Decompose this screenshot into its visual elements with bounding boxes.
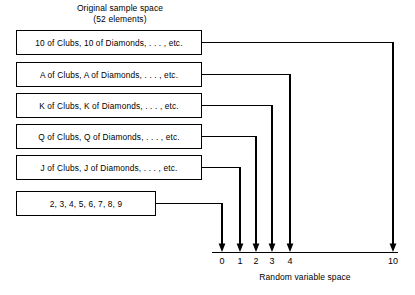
sample-space-box-label: 10 of Clubs, 10 of Diamonds, . . . , etc…	[35, 38, 182, 48]
arrowhead-1	[237, 244, 244, 253]
mapping-diagram: Original sample space (52 elements) 10 o…	[0, 0, 415, 295]
sample-space-box-numbers: 2, 3, 4, 5, 6, 7, 8, 9	[16, 191, 156, 216]
axis-tick-label-10: 10	[383, 256, 403, 266]
sample-space-box-jack: J of Clubs, J of Diamonds, . . . , etc.	[16, 155, 202, 180]
sample-space-box-label: A of Clubs, A of Diamonds, . . . , etc.	[40, 70, 178, 80]
arrowhead-0	[219, 244, 226, 253]
sample-space-box-label: 2, 3, 4, 5, 6, 7, 8, 9	[50, 199, 123, 209]
arrowhead-4	[287, 244, 294, 253]
sample-space-box-label: Q of Clubs, Q of Diamonds, . . . , etc.	[38, 132, 179, 142]
wire-box-10	[202, 43, 393, 247]
sample-space-box-label: J of Clubs, J of Diamonds, . . . , etc.	[41, 163, 178, 173]
axis-tick-label-3: 3	[262, 256, 282, 266]
sample-space-box-label: K of Clubs, K of Diamonds, . . . , etc.	[39, 101, 179, 111]
sample-space-box-10: 10 of Clubs, 10 of Diamonds, . . . , etc…	[16, 30, 202, 55]
wire-box-j	[202, 168, 240, 247]
arrowhead-3	[269, 244, 276, 253]
random-variable-space-caption: Random variable space	[212, 272, 398, 282]
axis-tick-label-4: 4	[280, 256, 300, 266]
arrowhead-2	[253, 244, 260, 253]
wire-box-q	[202, 137, 256, 247]
wire-box-k	[202, 106, 272, 247]
sample-space-box-queen: Q of Clubs, Q of Diamonds, . . . , etc.	[16, 124, 202, 149]
sample-space-box-king: K of Clubs, K of Diamonds, . . . , etc.	[16, 93, 202, 118]
sample-space-box-ace: A of Clubs, A of Diamonds, . . . , etc.	[16, 62, 202, 87]
axis-tick-label-0: 0	[212, 256, 232, 266]
wire-box-a	[202, 75, 290, 247]
wire-box-num	[156, 204, 222, 247]
arrowhead-10	[390, 244, 397, 253]
